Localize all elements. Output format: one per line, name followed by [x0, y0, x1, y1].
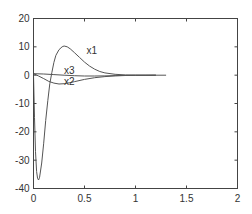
line-chart: 00.511.52-40-30-20-1001020 x1x2x3 [0, 0, 252, 214]
series-labels: x1x2x3 [64, 45, 97, 87]
series-label-x1: x1 [87, 45, 98, 56]
y-tick-label: 0 [24, 70, 30, 81]
y-tick-label: -40 [15, 183, 30, 194]
x-tick-label: 2 [235, 193, 241, 204]
axis-tick-labels: 00.511.52-40-30-20-1001020 [15, 13, 241, 204]
y-tick-label: -20 [15, 126, 30, 137]
x-tick-label: 0.5 [78, 193, 92, 204]
series-line-x1 [34, 46, 167, 180]
series-layer [34, 46, 167, 180]
x-tick-label: 0 [31, 193, 37, 204]
axis-ticks [34, 19, 238, 189]
series-line-x3 [34, 74, 156, 76]
y-tick-label: 20 [18, 13, 30, 24]
y-tick-label: -10 [15, 98, 30, 109]
series-label-x3: x3 [64, 65, 75, 76]
y-tick-label: -30 [15, 155, 30, 166]
x-tick-label: 1.5 [180, 193, 194, 204]
plot-area-frame [34, 19, 238, 189]
x-tick-label: 1 [133, 193, 139, 204]
series-label-x2: x2 [64, 76, 75, 87]
y-tick-label: 10 [18, 41, 30, 52]
